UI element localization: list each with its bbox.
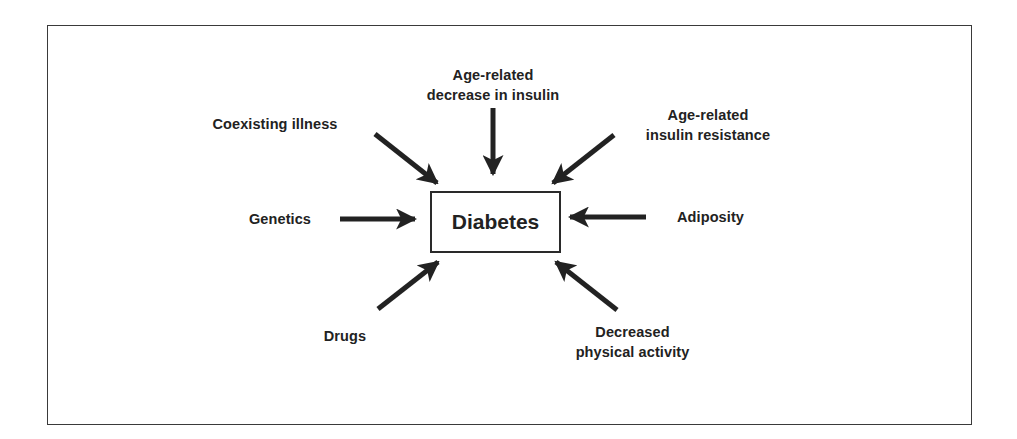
arrow-age-insulin-resistance xyxy=(553,135,614,183)
arrow-coexisting-illness xyxy=(375,134,437,183)
factor-age-insulin-resistance: Age-related insulin resistance xyxy=(628,105,788,145)
factor-age-decrease-insulin: Age-related decrease in insulin xyxy=(413,65,573,105)
factor-decreased-physical-activity: Decreased physical activity xyxy=(555,322,710,362)
factor-drugs: Drugs xyxy=(305,326,385,346)
factor-genetics: Genetics xyxy=(235,209,325,229)
arrow-decreased-physical-activity xyxy=(556,262,617,310)
diabetes-box: Diabetes xyxy=(430,191,561,253)
diabetes-label: Diabetes xyxy=(452,210,540,234)
arrow-drugs xyxy=(378,262,438,309)
factor-adiposity: Adiposity xyxy=(663,207,758,227)
factor-coexisting-illness: Coexisting illness xyxy=(190,114,360,134)
